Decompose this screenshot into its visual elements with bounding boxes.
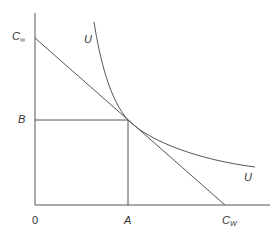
- curve-label-right: U: [244, 172, 252, 183]
- x-intercept-sub: W: [230, 220, 237, 227]
- x-intercept-main: C: [222, 214, 230, 226]
- x-intercept-label: CW: [222, 215, 237, 226]
- indifference-curve-diagram: [0, 0, 280, 246]
- y-intercept-main: C: [12, 30, 20, 42]
- indifference-curve-u: [94, 22, 255, 167]
- x-point-label: A: [124, 215, 131, 226]
- y-intercept-sub: ∞: [20, 36, 25, 43]
- y-intercept-label: C∞: [12, 31, 25, 42]
- origin-label: 0: [32, 215, 38, 226]
- y-point-label: B: [18, 114, 25, 125]
- curve-label-top: U: [84, 34, 92, 45]
